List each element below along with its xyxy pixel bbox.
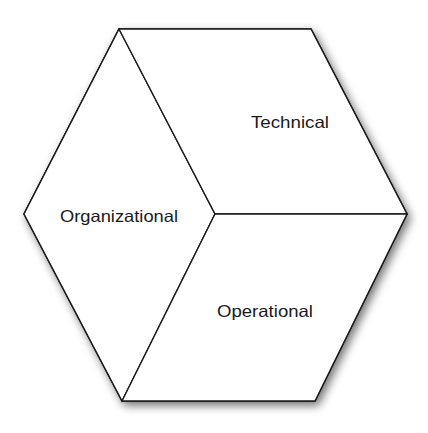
label-organizational: Organizational (60, 207, 178, 225)
cube-diagram: Organizational Technical Operational (0, 0, 428, 433)
label-technical: Technical (251, 113, 329, 131)
label-operational: Operational (217, 302, 313, 320)
